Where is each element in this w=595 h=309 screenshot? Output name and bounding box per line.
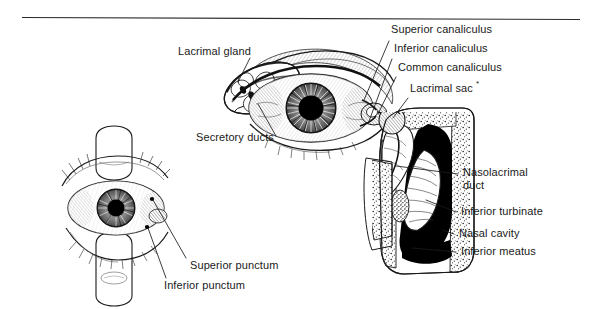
label-secretory-ducts: Secretory ducts xyxy=(196,131,274,144)
label-inferior-punctum: Inferior punctum xyxy=(164,279,245,292)
label-lacrimal-sac: Lacrimal sac xyxy=(410,82,473,95)
leader-inferior-punctum xyxy=(148,228,166,278)
upper-finger xyxy=(96,126,132,180)
lower-finger xyxy=(96,232,132,306)
label-nasolacrimal-duct: Nasolacrimal duct xyxy=(463,166,533,192)
top-rule xyxy=(22,18,580,20)
label-lacrimal-gland: Lacrimal gland xyxy=(178,45,251,58)
label-common-canaliculus: Common canaliculus xyxy=(398,61,502,74)
label-lacrimal-sac-marker: * xyxy=(476,79,479,88)
label-inferior-turbinate: Inferior turbinate xyxy=(461,205,543,218)
leader-superior-punctum xyxy=(153,200,186,258)
label-superior-punctum: Superior punctum xyxy=(190,259,278,272)
pupil-lower xyxy=(108,200,125,217)
pupil xyxy=(299,96,324,121)
anatomical-figure xyxy=(0,0,595,309)
label-nasal-cavity: Nasal cavity xyxy=(459,227,520,240)
label-inferior-meatus: Inferior meatus xyxy=(461,245,536,258)
label-inferior-canaliculus: Inferior canaliculus xyxy=(394,42,488,55)
lower-eye-illustration xyxy=(62,126,170,306)
label-superior-canaliculus: Superior canaliculus xyxy=(391,23,492,36)
